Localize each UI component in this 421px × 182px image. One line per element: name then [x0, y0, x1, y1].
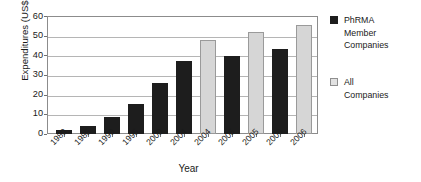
gray-square-icon [330, 78, 338, 86]
bar-2006-all [296, 25, 312, 134]
legend-phrma-line3: Companies [344, 39, 389, 52]
y-tick-label-50: 50 [20, 30, 43, 40]
y-tick-label-30: 30 [20, 69, 43, 79]
legend-all-line2: Companies [344, 89, 389, 102]
bar-series-container [47, 16, 318, 134]
black-square-icon [330, 16, 338, 24]
x-axis-title: Year [0, 163, 399, 174]
legend-item-all-label: All Companies [344, 76, 389, 101]
y-tick-label-10: 10 [20, 108, 43, 118]
bar-2005-phrma [224, 56, 240, 134]
bar-2004-all [200, 40, 216, 134]
bar-2006-phrma [272, 49, 288, 134]
y-tick-label-40: 40 [20, 50, 43, 60]
bar-2004-phrma [176, 61, 192, 134]
y-tick-label-0: 0 [20, 128, 43, 138]
bar-2000-phrma [152, 83, 168, 134]
y-tick-label-20: 20 [20, 89, 43, 99]
bar-chart-figure: Expenditures (US$ billions) 60 50 40 30 … [0, 0, 421, 182]
bar-2005-all [248, 32, 264, 134]
legend-all-line1: All [344, 76, 389, 89]
legend-phrma-line1: PhRMA [344, 14, 389, 27]
legend-item-phrma-label: PhRMA Member Companies [344, 14, 389, 52]
y-tick-label-60: 60 [20, 11, 43, 21]
legend-phrma-line2: Member [344, 27, 389, 40]
